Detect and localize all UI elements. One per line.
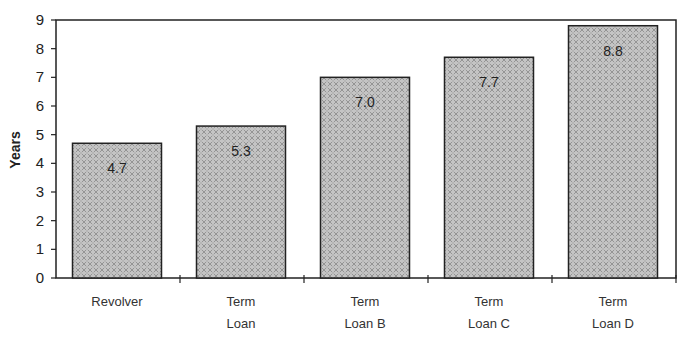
y-tick-label: 3	[36, 183, 44, 200]
y-tick-label: 8	[36, 40, 44, 57]
x-tick-label: TermLoan B	[344, 294, 385, 331]
bar-value-label: 5.3	[231, 143, 251, 159]
bar-term-loan: 5.3	[197, 126, 286, 278]
bar-term-loan-c: 7.7	[445, 57, 534, 278]
y-tick-label: 5	[36, 126, 44, 143]
bar-value-label: 8.8	[603, 43, 623, 59]
bars: 4.75.37.07.78.8	[73, 26, 658, 278]
y-tick-label: 0	[36, 269, 44, 286]
bar-revolver: 4.7	[73, 143, 162, 278]
x-tick-label: TermLoan D	[592, 294, 634, 331]
x-axis: RevolverTermLoanTermLoan BTermLoan CTerm…	[91, 275, 676, 331]
x-tick-label: Revolver	[91, 294, 143, 309]
x-tick-label: TermLoan C	[468, 294, 510, 331]
y-tick-label: 9	[36, 11, 44, 28]
y-tick-label: 4	[36, 154, 44, 171]
bar-term-loan-b: 7.0	[321, 77, 410, 278]
y-tick-label: 7	[36, 68, 44, 85]
bar-term-loan-d: 8.8	[569, 26, 658, 278]
y-axis-title: Years	[7, 131, 23, 169]
y-tick-label: 1	[36, 240, 44, 257]
bar-value-label: 4.7	[107, 160, 127, 176]
bar-value-label: 7.7	[479, 74, 499, 90]
y-tick-label: 6	[36, 97, 44, 114]
y-axis: 0123456789	[36, 11, 56, 286]
y-tick-label: 2	[36, 212, 44, 229]
x-tick-label: TermLoan	[227, 294, 256, 331]
bar-chart: 0123456789 4.75.37.07.78.8 RevolverTermL…	[0, 0, 685, 337]
bar-value-label: 7.0	[355, 94, 375, 110]
